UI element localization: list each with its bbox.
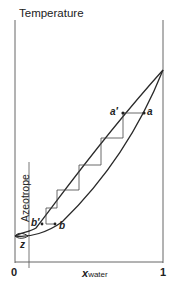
- point-b: [54, 223, 57, 226]
- azeotrope-label: Azeotrope: [20, 174, 31, 222]
- y-axis-label: Temperature: [19, 8, 84, 20]
- label-b-prime: b′: [31, 218, 40, 228]
- phase-diagram: Temperature Azeotrope a′ a b′ b z 0 1 xw…: [0, 0, 174, 285]
- point-a: [142, 111, 145, 114]
- x-tick-0: 0: [11, 267, 17, 278]
- point-b-prime: [41, 223, 44, 226]
- diagram-graphics: [0, 0, 174, 285]
- point-a-prime: [121, 111, 124, 114]
- label-b: b: [59, 221, 65, 231]
- x-axis-label: xwater: [82, 268, 108, 279]
- x-tick-1: 1: [160, 267, 166, 278]
- label-z: z: [20, 240, 25, 250]
- distillation-steps: [46, 113, 144, 224]
- label-a: a: [147, 107, 153, 117]
- vapour-curve: [15, 70, 163, 236]
- label-a-prime: a′: [110, 107, 118, 117]
- x-axis-subscript: water: [88, 270, 108, 279]
